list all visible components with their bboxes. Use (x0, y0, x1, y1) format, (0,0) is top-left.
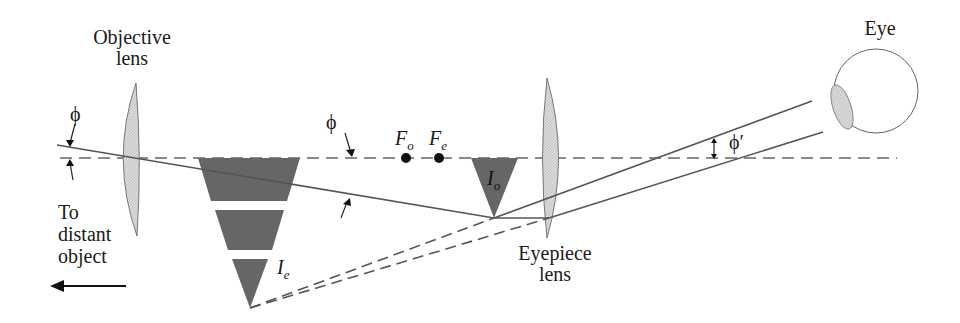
focal-objective-sub: o (407, 138, 414, 153)
phi-prime-arrowhead-top-icon (711, 138, 717, 143)
image-eyepiece-top (198, 158, 300, 201)
image-objective-main: I (487, 167, 494, 189)
image-objective-label: Io (487, 168, 500, 191)
image-eyepiece-sub: e (284, 267, 290, 282)
distant-label-line2: distant (58, 223, 138, 245)
focal-eyepiece-main: F (429, 127, 441, 149)
eyepiece-lens (543, 78, 559, 238)
distant-object-label: To distant object (58, 201, 138, 267)
focal-objective-label: Fo (395, 128, 414, 151)
focal-point-eyepiece (434, 153, 444, 163)
objective-label-line1: Objective (82, 27, 182, 48)
emergent-ray-upper (494, 101, 812, 218)
focal-objective-main: F (395, 127, 407, 149)
distant-object-arrowhead-icon (50, 280, 64, 292)
image-eyepiece-label: Ie (277, 257, 289, 280)
distant-label-line1: To (58, 201, 138, 223)
distant-label-line3: object (58, 245, 138, 267)
phi-mid-arrowhead-top-icon (346, 149, 355, 157)
phi-label-mid: ϕ (326, 112, 337, 133)
focal-point-objective (401, 153, 411, 163)
phi-mid-arrowhead-bottom-icon (343, 198, 351, 206)
eyepiece-label-line1: Eyepiece (500, 243, 610, 264)
image-eyepiece-main: I (277, 256, 284, 278)
image-eyepiece-bottom (232, 259, 268, 308)
phi-arrowhead-bottom-icon (66, 159, 74, 166)
image-eyepiece-mid (215, 210, 284, 250)
phi-label-objective: ϕ (70, 104, 81, 125)
image-objective-sub: o (494, 178, 501, 193)
eyepiece-label-line2: lens (500, 264, 610, 285)
objective-lens-label: Objective lens (82, 27, 182, 69)
focal-eyepiece-label: Fe (429, 128, 447, 151)
eyepiece-lens-label: Eyepiece lens (500, 243, 610, 285)
telescope-diagram: Objective lens Eyepiece lens Eye To dist… (0, 0, 960, 323)
emergent-ray-lower (549, 132, 823, 218)
eye-label: Eye (850, 18, 910, 39)
focal-eyepiece-sub: e (441, 138, 447, 153)
objective-label-line2: lens (82, 48, 182, 69)
phi-prime-label: ϕ′ (729, 132, 744, 153)
